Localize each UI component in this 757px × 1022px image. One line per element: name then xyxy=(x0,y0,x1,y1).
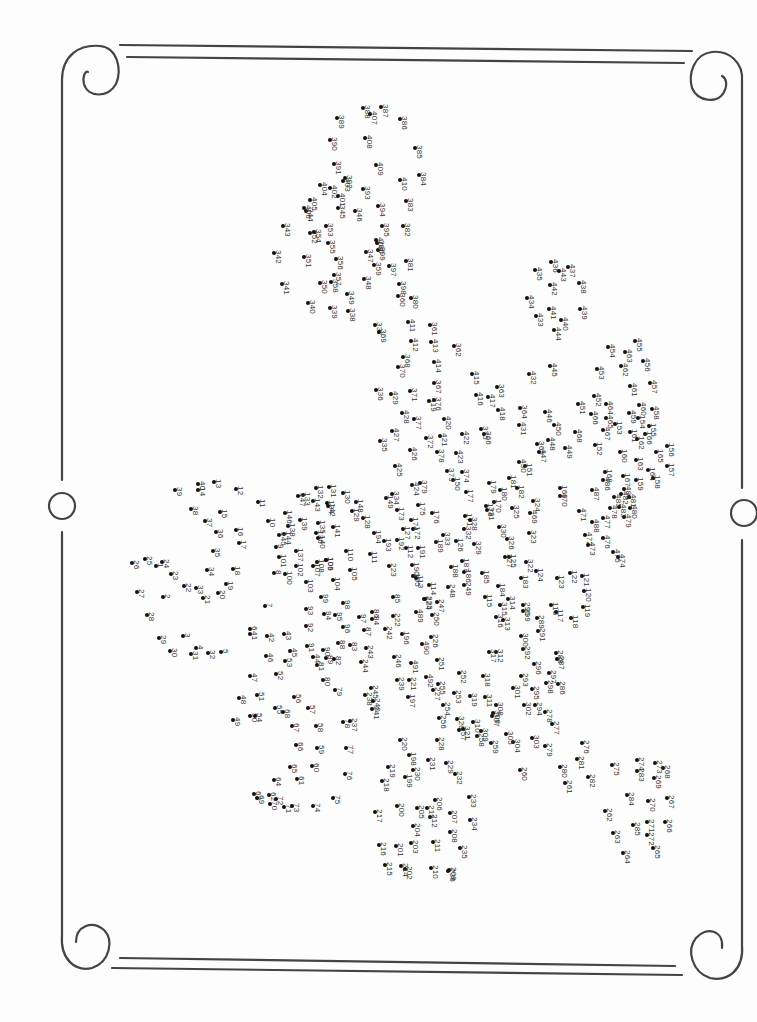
dot-number-label: 441 xyxy=(549,306,558,320)
dot-number-label: 74 xyxy=(313,803,322,812)
dot-number-label: 58 xyxy=(316,723,325,732)
dot-number-label: 4 xyxy=(196,645,205,650)
dot-number-label: 67 xyxy=(292,723,301,732)
dot-number-label: 346 xyxy=(355,208,364,222)
dot-number-label: 434 xyxy=(527,295,536,309)
dot-number-label: 255 xyxy=(438,681,447,695)
dot-number-label: 222 xyxy=(393,613,402,627)
dot-number-label: 182 xyxy=(517,485,526,499)
dot-number-label: 13 xyxy=(214,479,223,488)
dot-number-label: 447 xyxy=(539,449,548,463)
dot-number-label: 445 xyxy=(550,363,559,377)
dot-number-label: 466 xyxy=(591,411,600,425)
dot-number-label: 45 xyxy=(290,648,299,657)
dot-number-label: 231 xyxy=(428,757,437,771)
dot-number-label: 283 xyxy=(637,768,646,782)
dot-number-label: 41 xyxy=(250,631,259,640)
dot-number-label: 187 xyxy=(462,558,471,572)
dot-number-label: 415 xyxy=(472,371,481,385)
dot-number-label: 284 xyxy=(627,792,636,806)
dot-number-label: 210 xyxy=(431,865,440,879)
dot-number-label: 464 xyxy=(606,401,615,415)
dot-number-label: 310 xyxy=(473,719,482,733)
dot-number-label: 325 xyxy=(512,505,521,519)
dot-number-label: 469 xyxy=(530,510,539,524)
dot-number-label: 276 xyxy=(582,740,591,754)
dot-number-label: 244 xyxy=(361,659,370,673)
dot-number-label: 253 xyxy=(454,690,463,704)
dot-number-label: 294 xyxy=(535,702,544,716)
dot-number-label: 92 xyxy=(306,623,315,632)
dot-number-label: 233 xyxy=(469,794,478,808)
dot-number-label: 340 xyxy=(308,300,317,314)
dot-number-label: 338 xyxy=(348,308,357,322)
dot-number-label: 183 xyxy=(521,575,530,589)
dot-number-label: 286 xyxy=(558,681,567,695)
dot-number-label: 247 xyxy=(437,599,446,613)
dot-number-label: 204 xyxy=(413,823,422,837)
dot-number-label: 384 xyxy=(419,172,428,186)
dot-number-label: 317 xyxy=(489,649,498,663)
dot-number-label: 263 xyxy=(613,830,622,844)
dot-number-label: 486 xyxy=(603,477,612,491)
dot-number-label: 12 xyxy=(236,486,245,495)
dot-number-label: 339 xyxy=(330,305,339,319)
dot-number-label: 273 xyxy=(655,760,664,774)
dot-number-label: 236 xyxy=(448,868,457,882)
dot-number-label: 76 xyxy=(345,771,354,780)
dot-number-label: 218 xyxy=(382,778,391,792)
dot-number-label: 272 xyxy=(647,832,656,846)
dot-number-label: 51 xyxy=(257,692,266,701)
dot-number-label: 112 xyxy=(406,545,415,558)
dot-number-label: 10 xyxy=(268,518,277,527)
dot-number-label: 2 xyxy=(163,594,172,599)
dot-number-label: 195 xyxy=(413,573,422,587)
dot-number-label: 411 xyxy=(408,319,417,332)
dot-number-label: 278 xyxy=(545,709,554,723)
dot-number-label: 42 xyxy=(267,633,276,642)
dot-number-label: 413 xyxy=(431,339,440,353)
dot-number-label: 87 xyxy=(364,627,373,636)
dot-number-label: 423 xyxy=(456,450,465,464)
dot-number-label: 115 xyxy=(485,594,494,607)
dot-number-label: 101 xyxy=(279,554,288,568)
dot-number-label: 38 xyxy=(191,506,200,515)
dot-number-label: 117 xyxy=(556,609,565,622)
dot-number-label: 43 xyxy=(284,631,293,640)
dot-number-label: 349 xyxy=(347,291,356,305)
dot-number-label: 409 xyxy=(376,162,385,176)
dot-number-label: 241 xyxy=(372,706,381,720)
dot-number-label: 72 xyxy=(276,796,285,805)
dot-number-label: 356 xyxy=(336,256,345,270)
dot-number-label: 122 xyxy=(570,570,579,584)
dot-number-label: 281 xyxy=(577,756,586,770)
dot-number-label: 404 xyxy=(320,182,329,196)
dot-number-label: 305 xyxy=(506,731,515,745)
dot-number-label: 175 xyxy=(418,502,427,516)
dot-number-label: 298 xyxy=(546,680,555,694)
dot-number-label: 141 xyxy=(333,524,342,538)
dot-number-label: 160 xyxy=(620,449,629,463)
dot-number-label: 68 xyxy=(283,709,292,718)
dot-number-label: 416 xyxy=(476,392,485,406)
dot-number-label: 422 xyxy=(462,431,471,445)
dot-number-label: 373 xyxy=(447,468,456,482)
dot-number-label: 148 xyxy=(356,499,365,513)
dot-number-label: 242 xyxy=(385,626,394,640)
dot-number-label: 120 xyxy=(584,588,593,602)
dot-number-label: 52 xyxy=(276,671,285,680)
dot-number-label: 256 xyxy=(439,715,448,729)
dot-number-label: 57 xyxy=(308,705,317,714)
dot-number-label: 277 xyxy=(552,721,561,735)
dot-number-label: 39 xyxy=(175,487,184,496)
dot-number-label: 88 xyxy=(338,640,347,649)
dot-number-label: 350 xyxy=(320,280,329,294)
dot-number-label: 327 xyxy=(505,554,514,568)
puzzle-page: 1234567891011121314151617181920212223242… xyxy=(0,0,757,1022)
dot-number-label: 206 xyxy=(435,797,444,811)
dot-number-label: 152 xyxy=(595,442,604,456)
dot-number-label: 333 xyxy=(443,532,452,546)
dot-number-label: 164 xyxy=(648,467,657,481)
dot-number-label: 383 xyxy=(406,198,415,212)
dot-number-label: 341 xyxy=(282,281,291,295)
